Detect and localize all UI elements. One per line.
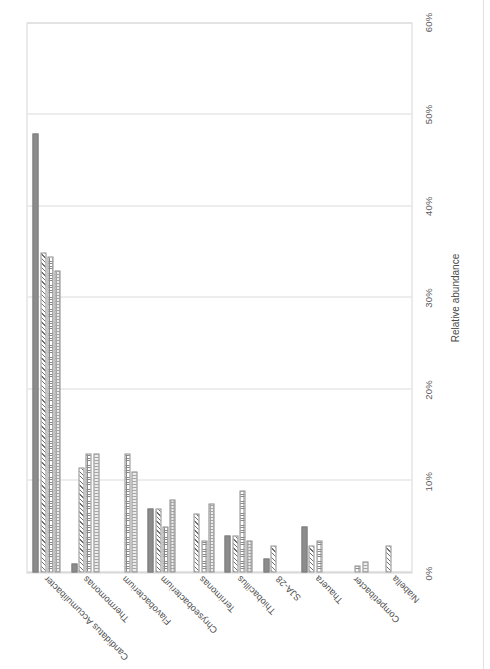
bar-group — [181, 23, 219, 572]
bar-row — [40, 23, 46, 572]
bar-row — [201, 23, 207, 572]
bar-row — [32, 23, 38, 572]
bar[interactable] — [308, 545, 314, 572]
bar-row — [116, 23, 122, 572]
tick-label-50: 50% — [422, 104, 433, 124]
bar-row — [323, 23, 329, 572]
bar-row — [378, 23, 384, 572]
bar-group — [334, 23, 372, 572]
bar-row — [155, 23, 161, 572]
axis-title: Relative abundance — [449, 22, 460, 573]
bar-row — [246, 23, 252, 572]
bar-row — [85, 23, 91, 572]
bar-group — [142, 23, 180, 572]
bar-row — [385, 23, 391, 572]
bar-row — [109, 23, 115, 572]
bar[interactable] — [71, 563, 77, 572]
bar-row — [124, 23, 130, 572]
bar-row — [169, 23, 175, 572]
bar-row — [362, 23, 368, 572]
bar[interactable] — [93, 453, 99, 572]
bar[interactable] — [162, 526, 168, 572]
bar[interactable] — [224, 535, 230, 572]
bar[interactable] — [354, 565, 360, 572]
bar-row — [162, 23, 168, 572]
bar-chart: 0%10%20%30%40%50%60% Relative abundance … — [0, 0, 490, 669]
bar-row — [239, 23, 245, 572]
category-label-9: Niabella — [389, 573, 420, 604]
bar-row — [400, 23, 406, 572]
bar[interactable] — [32, 133, 38, 572]
bar[interactable] — [201, 540, 207, 572]
bar-row — [54, 23, 60, 572]
bar-row — [301, 23, 307, 572]
bar-group — [104, 23, 142, 572]
tick-label-0: 0% — [422, 566, 433, 580]
bar-row — [232, 23, 238, 572]
bar[interactable] — [78, 467, 84, 572]
bar-row — [308, 23, 314, 572]
bar-group — [65, 23, 103, 572]
bar[interactable] — [193, 513, 199, 572]
bar[interactable] — [155, 508, 161, 572]
bar-group — [219, 23, 257, 572]
tick-label-40: 40% — [422, 196, 433, 216]
bar-row — [263, 23, 269, 572]
bar[interactable] — [147, 508, 153, 572]
bar[interactable] — [232, 535, 238, 572]
bar-row — [186, 23, 192, 572]
bar-row — [93, 23, 99, 572]
category-label-4: Terrimonas — [196, 573, 236, 613]
bar[interactable] — [301, 526, 307, 572]
category-axis-labels: Candidatus AccumulibacterThermomonasFlav… — [26, 573, 412, 669]
bar-group — [373, 23, 411, 572]
bar-row — [47, 23, 53, 572]
bar-row — [131, 23, 137, 572]
category-label-5: Thiobacillus — [235, 573, 278, 616]
value-axis-ticks: 0%10%20%30%40%50%60% — [422, 22, 438, 573]
bar[interactable] — [85, 453, 91, 572]
bar[interactable] — [316, 540, 322, 572]
bar[interactable] — [239, 490, 245, 572]
bar[interactable] — [208, 503, 214, 572]
category-label-6: SJA-28 — [273, 573, 302, 602]
bar[interactable] — [54, 270, 60, 572]
bar[interactable] — [169, 499, 175, 572]
bar-row — [71, 23, 77, 572]
tick-label-30: 30% — [422, 288, 433, 308]
bar[interactable] — [40, 252, 46, 572]
tick-label-20: 20% — [422, 380, 433, 400]
bar-row — [147, 23, 153, 572]
bar-row — [78, 23, 84, 572]
bar-group — [296, 23, 334, 572]
bar[interactable] — [362, 561, 368, 572]
bar[interactable] — [47, 256, 53, 572]
bar-group — [257, 23, 295, 572]
bar[interactable] — [124, 453, 130, 572]
bar-groups — [27, 23, 411, 572]
bar-row — [270, 23, 276, 572]
bar-row — [354, 23, 360, 572]
bar-group — [27, 23, 65, 572]
rotated-figure-wrapper: 0%10%20%30%40%50%60% Relative abundance … — [0, 0, 490, 669]
plot-area — [26, 22, 412, 573]
scanned-page: 0%10%20%30%40%50%60% Relative abundance … — [0, 0, 490, 669]
category-label-7: Thauera — [312, 573, 344, 605]
bar-row — [224, 23, 230, 572]
bar-row — [339, 23, 345, 572]
tick-label-10: 10% — [422, 471, 433, 491]
bar[interactable] — [270, 545, 276, 572]
bar-row — [316, 23, 322, 572]
bar-row — [193, 23, 199, 572]
bar-row — [208, 23, 214, 572]
bar[interactable] — [246, 540, 252, 572]
bar[interactable] — [385, 545, 391, 572]
tick-label-60: 60% — [422, 12, 433, 32]
bar-row — [393, 23, 399, 572]
bar[interactable] — [263, 558, 269, 572]
bar-row — [347, 23, 353, 572]
bar-row — [285, 23, 291, 572]
bar[interactable] — [131, 471, 137, 572]
bar-row — [277, 23, 283, 572]
